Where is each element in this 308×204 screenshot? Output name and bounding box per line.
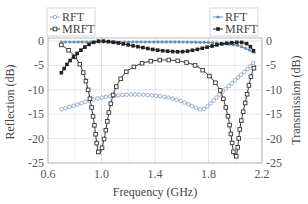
data-marker: [176, 59, 180, 63]
data-marker: [72, 40, 75, 43]
data-marker: [186, 49, 190, 53]
data-marker: [158, 58, 162, 62]
y-right-tick-label: -15: [266, 107, 282, 121]
data-marker: [67, 48, 71, 52]
data-marker: [249, 75, 253, 79]
data-marker: [104, 128, 108, 132]
data-marker: [60, 40, 63, 43]
series-rft-reflection: [60, 61, 256, 112]
data-marker: [224, 106, 228, 110]
data-marker: [228, 123, 232, 127]
data-marker: [244, 47, 247, 50]
data-marker: [100, 96, 104, 100]
data-marker: [86, 88, 90, 92]
data-marker: [95, 141, 99, 145]
x-axis-label: Frequency (GHz): [113, 185, 197, 199]
data-marker: [126, 43, 130, 47]
data-marker: [236, 44, 239, 47]
data-marker: [92, 98, 96, 102]
data-marker: [224, 87, 228, 91]
data-marker: [93, 123, 97, 127]
y-left-tick-label: -25: [28, 156, 44, 170]
data-marker: [72, 104, 76, 108]
data-marker: [96, 97, 100, 101]
data-marker: [133, 93, 137, 97]
data-marker: [94, 132, 98, 136]
data-marker: [225, 41, 229, 45]
data-marker: [203, 41, 206, 44]
data-marker: [62, 67, 66, 71]
data-marker: [121, 42, 125, 46]
data-marker: [140, 61, 144, 65]
data-marker: [131, 44, 135, 48]
data-marker: [243, 101, 247, 105]
data-marker: [190, 104, 194, 108]
data-marker: [248, 48, 251, 51]
chart-canvas: 0.61.01.41.82.2 0-5-10-15-20-25 0-5-10-1…: [0, 0, 308, 204]
data-marker: [60, 43, 64, 47]
data-marker: [79, 48, 83, 52]
data-marker: [206, 104, 210, 108]
y-right-tick-label: -5: [266, 58, 276, 72]
data-marker: [90, 106, 94, 110]
data-marker: [167, 58, 171, 62]
y-right-tick-label: -25: [266, 156, 282, 170]
data-marker: [148, 40, 151, 43]
data-marker: [201, 68, 205, 72]
data-marker: [242, 70, 246, 74]
data-marker: [214, 81, 218, 85]
data-marker: [177, 40, 180, 43]
data-marker: [83, 45, 87, 49]
data-marker: [100, 146, 104, 150]
data-marker: [240, 41, 244, 45]
data-marker: [230, 41, 234, 45]
data-marker: [163, 95, 167, 99]
data-marker: [237, 137, 241, 141]
legend-label: MRFT: [225, 22, 258, 36]
data-marker: [235, 154, 239, 158]
legend-marker-icon: [53, 15, 57, 19]
data-marker: [191, 48, 195, 52]
data-marker: [129, 93, 133, 97]
data-marker: [181, 50, 185, 54]
data-marker: [239, 73, 243, 77]
data-marker: [176, 50, 180, 54]
data-marker: [106, 120, 110, 124]
data-marker: [146, 93, 150, 97]
data-marker: [161, 40, 164, 43]
data-marker: [194, 41, 197, 44]
y-left-tick-label: -15: [28, 107, 44, 121]
data-marker: [77, 40, 80, 43]
y-left-tick-label: -10: [28, 83, 44, 97]
x-axis-ticks: 0.61.01.41.82.2: [41, 167, 270, 181]
data-marker: [136, 45, 140, 49]
data-marker: [215, 43, 219, 47]
data-marker: [226, 114, 230, 118]
data-marker: [152, 40, 155, 43]
legend-marker-icon: [53, 27, 57, 31]
data-marker: [193, 64, 197, 68]
y-right-tick-label: 0: [266, 34, 272, 48]
legend-transmission: RFTMRFT: [210, 8, 258, 36]
data-marker: [198, 41, 201, 44]
data-marker: [97, 150, 101, 154]
data-marker: [81, 40, 84, 43]
data-marker: [236, 146, 240, 150]
y-right-tick-label: -20: [266, 132, 282, 146]
data-marker: [215, 96, 219, 100]
data-marker: [161, 49, 165, 53]
data-marker: [179, 99, 183, 103]
series-mrft-reflection: [60, 43, 256, 158]
y-axis-right-ticks: 0-5-10-15-20-25: [266, 34, 282, 170]
data-marker: [92, 41, 96, 45]
data-marker: [171, 97, 175, 101]
data-marker: [80, 101, 84, 105]
data-marker: [245, 92, 249, 96]
series-layer: [60, 39, 256, 158]
data-marker: [166, 49, 170, 53]
data-marker: [84, 100, 88, 104]
data-marker: [158, 94, 162, 98]
data-marker: [75, 52, 79, 56]
data-marker: [230, 141, 234, 145]
data-marker: [202, 107, 206, 111]
